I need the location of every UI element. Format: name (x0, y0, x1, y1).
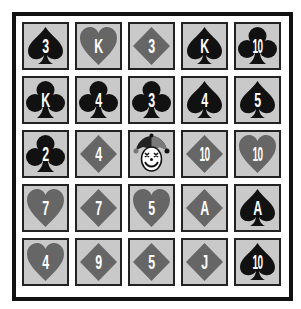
card-3-of-diamonds[interactable]: 3 (128, 22, 175, 70)
card-rank: 9 (85, 240, 112, 284)
card-7-of-diamonds[interactable]: 7 (75, 184, 122, 232)
card-rank: 10 (194, 132, 216, 176)
card-rank: 4 (191, 78, 218, 122)
card-a-of-spades[interactable]: A (234, 184, 281, 232)
card-k-of-spades[interactable]: K (181, 22, 228, 70)
card-rank: 10 (247, 240, 269, 284)
board-frame: 3K3K10K434524 1010775AA495J10 (12, 12, 293, 301)
card-j-of-diamonds[interactable]: J (181, 238, 228, 286)
card-rank: J (191, 240, 218, 284)
card-10-of-hearts[interactable]: 10 (234, 130, 281, 178)
card-4-of-clubs[interactable]: 4 (75, 76, 122, 124)
card-rank: 10 (247, 24, 269, 68)
card-rank: K (85, 24, 112, 68)
card-rank: 2 (32, 132, 59, 176)
card-k-of-hearts[interactable]: K (75, 22, 122, 70)
card-2-of-clubs[interactable]: 2 (22, 130, 69, 178)
card-rank: K (191, 24, 218, 68)
card-a-of-diamonds[interactable]: A (181, 184, 228, 232)
card-joker[interactable] (128, 130, 175, 178)
card-rank: 3 (32, 24, 59, 68)
card-rank: A (244, 186, 271, 230)
card-5-of-hearts[interactable]: 5 (128, 184, 175, 232)
card-rank: 3 (138, 24, 165, 68)
card-rank: 5 (244, 78, 271, 122)
card-3-of-clubs[interactable]: 3 (128, 76, 175, 124)
card-9-of-diamonds[interactable]: 9 (75, 238, 122, 286)
card-5-of-spades[interactable]: 5 (234, 76, 281, 124)
card-rank: 3 (138, 78, 165, 122)
card-10-of-spades[interactable]: 10 (234, 238, 281, 286)
card-7-of-hearts[interactable]: 7 (22, 184, 69, 232)
card-rank: A (191, 186, 218, 230)
card-rank: 4 (32, 240, 59, 284)
card-rank: 5 (138, 186, 165, 230)
card-k-of-clubs[interactable]: K (22, 76, 69, 124)
card-rank: 7 (32, 186, 59, 230)
card-rank: 10 (247, 132, 269, 176)
card-4-of-spades[interactable]: 4 (181, 76, 228, 124)
card-rank: 5 (138, 240, 165, 284)
card-4-of-hearts[interactable]: 4 (22, 238, 69, 286)
card-rank: 4 (85, 132, 112, 176)
card-10-of-diamonds[interactable]: 10 (181, 130, 228, 178)
card-5-of-diamonds[interactable]: 5 (128, 238, 175, 286)
card-rank: 4 (85, 78, 112, 122)
card-rank: 7 (85, 186, 112, 230)
card-4-of-diamonds[interactable]: 4 (75, 130, 122, 178)
card-rank: K (32, 78, 59, 122)
card-10-of-clubs[interactable]: 10 (234, 22, 281, 70)
card-3-of-spades[interactable]: 3 (22, 22, 69, 70)
card-grid: 3K3K10K434524 1010775AA495J10 (22, 22, 281, 286)
